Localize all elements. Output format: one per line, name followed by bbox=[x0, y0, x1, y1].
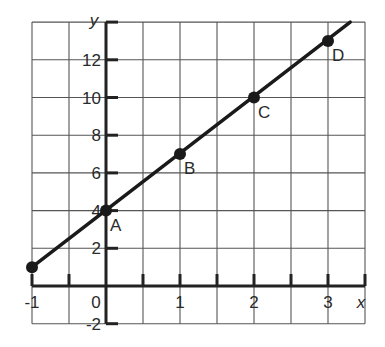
data-line bbox=[32, 22, 350, 267]
point-label: C bbox=[258, 103, 270, 122]
x-tick-label: 1 bbox=[175, 293, 184, 312]
x-tick-label: -1 bbox=[24, 293, 39, 312]
point-label: B bbox=[184, 159, 195, 178]
x-axis-label: x bbox=[356, 293, 366, 312]
data-point bbox=[26, 261, 38, 273]
line-chart: -11230-224681012yx ABCD bbox=[0, 0, 385, 347]
y-tick-label: 2 bbox=[92, 239, 101, 258]
y-tick-label: 12 bbox=[82, 51, 101, 70]
x-tick-label: 3 bbox=[323, 293, 332, 312]
point-label: A bbox=[110, 216, 122, 235]
y-tick-label: 6 bbox=[92, 164, 101, 183]
y-tick-label: -2 bbox=[86, 315, 101, 334]
origin-label: 0 bbox=[91, 293, 100, 312]
x-tick-label: 2 bbox=[249, 293, 258, 312]
y-tick-label: 8 bbox=[92, 126, 101, 145]
point-label: D bbox=[332, 46, 344, 65]
y-axis-label: y bbox=[89, 11, 100, 30]
y-tick-label: 10 bbox=[82, 89, 101, 108]
